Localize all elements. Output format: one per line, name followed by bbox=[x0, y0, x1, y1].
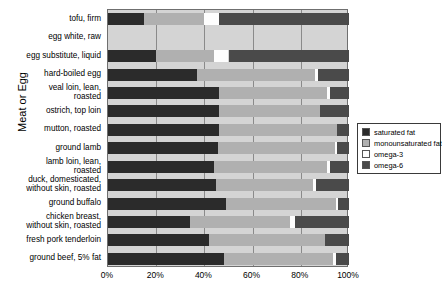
bar-segment-o6[interactable] bbox=[295, 216, 349, 228]
bar-segment-mono[interactable] bbox=[218, 142, 335, 154]
legend-label: omega-6 bbox=[374, 161, 403, 170]
bar-segment-mono[interactable] bbox=[226, 198, 336, 210]
category-label: ground beef, 5% fat bbox=[0, 253, 101, 262]
bar-row[interactable] bbox=[108, 124, 347, 136]
bar-segment-o6[interactable] bbox=[325, 234, 349, 246]
x-tick-label: 80% bbox=[280, 270, 320, 280]
bar-segment-o6[interactable] bbox=[320, 105, 349, 117]
legend-label: monounsaturated fat bbox=[374, 139, 442, 148]
chart-root: Meat or Egg tofu, firmegg white, rawegg … bbox=[0, 0, 442, 292]
legend-label: omega-3 bbox=[374, 150, 403, 159]
bar-segment-mono[interactable] bbox=[224, 253, 334, 265]
bar-segment-mono[interactable] bbox=[156, 50, 214, 62]
bar-segment-mono[interactable] bbox=[219, 124, 337, 136]
chart-legend: saturated fatmonounsaturated fatomega-3o… bbox=[357, 123, 441, 174]
x-tick-label: 20% bbox=[135, 270, 175, 280]
bar-segment-o3[interactable] bbox=[204, 13, 218, 25]
bar-segment-mono[interactable] bbox=[219, 87, 327, 99]
bar-segment-mono[interactable] bbox=[197, 69, 315, 81]
bar-segment-o6[interactable] bbox=[219, 13, 349, 25]
category-label: ostrich, top loin bbox=[0, 106, 101, 115]
bar-segment-o6[interactable] bbox=[229, 50, 350, 62]
bar-row[interactable] bbox=[108, 161, 347, 173]
legend-item[interactable]: saturated fat bbox=[362, 127, 437, 137]
bar-row[interactable] bbox=[108, 87, 347, 99]
x-tick-label: 40% bbox=[183, 270, 223, 280]
legend-label: saturated fat bbox=[374, 128, 415, 137]
bar-row[interactable] bbox=[108, 142, 347, 154]
category-label: ground buffalo bbox=[0, 198, 101, 207]
bar-segment-sat[interactable] bbox=[108, 87, 219, 99]
category-label: mutton, roasted bbox=[0, 124, 101, 133]
x-tick-label: 0% bbox=[87, 270, 127, 280]
bar-segment-sat[interactable] bbox=[108, 13, 144, 25]
bar-segment-o6[interactable] bbox=[330, 87, 349, 99]
bar-segment-mono[interactable] bbox=[219, 105, 320, 117]
category-label: fresh pork tenderloin bbox=[0, 235, 101, 244]
category-label: egg substitute, liquid bbox=[0, 51, 101, 60]
bar-segment-mono[interactable] bbox=[216, 179, 312, 191]
bar-segment-sat[interactable] bbox=[108, 124, 219, 136]
category-label: egg white, raw bbox=[0, 32, 101, 41]
legend-item[interactable]: monounsaturated fat bbox=[362, 138, 437, 148]
bar-segment-sat[interactable] bbox=[108, 198, 226, 210]
bar-row[interactable] bbox=[108, 13, 347, 25]
bar-segment-sat[interactable] bbox=[108, 105, 219, 117]
bar-segment-o6[interactable] bbox=[337, 142, 349, 154]
bar-segment-o6[interactable] bbox=[337, 124, 349, 136]
bar-row[interactable] bbox=[108, 234, 347, 246]
bar-row[interactable] bbox=[108, 179, 347, 191]
bar-segment-sat[interactable] bbox=[108, 179, 216, 191]
legend-swatch-icon bbox=[362, 139, 370, 147]
category-label: chicken breast, without skin, roasted bbox=[0, 212, 101, 230]
bar-segment-sat[interactable] bbox=[108, 253, 224, 265]
legend-swatch-icon bbox=[362, 150, 370, 158]
category-label: ground lamb bbox=[0, 143, 101, 152]
legend-swatch-icon bbox=[362, 161, 370, 169]
bar-segment-mono[interactable] bbox=[190, 216, 290, 228]
bar-row[interactable] bbox=[108, 50, 347, 62]
bar-segment-sat[interactable] bbox=[108, 142, 218, 154]
bar-segment-mono[interactable] bbox=[209, 234, 325, 246]
bar-row[interactable] bbox=[108, 198, 347, 210]
bar-segment-mono[interactable] bbox=[214, 161, 327, 173]
bar-row[interactable] bbox=[108, 253, 347, 265]
bar-segment-o6[interactable] bbox=[316, 179, 349, 191]
bar-segment-o6[interactable] bbox=[318, 69, 349, 81]
bar-segment-sat[interactable] bbox=[108, 161, 214, 173]
bar-row[interactable] bbox=[108, 216, 347, 228]
legend-item[interactable]: omega-3 bbox=[362, 149, 437, 159]
bar-segment-o3[interactable] bbox=[214, 50, 228, 62]
top-edge-artifact bbox=[0, 0, 442, 5]
plot-area bbox=[107, 9, 348, 267]
legend-swatch-icon bbox=[362, 128, 370, 136]
bar-segment-o6[interactable] bbox=[338, 198, 349, 210]
category-label: veal loin, lean, roasted bbox=[0, 83, 101, 101]
bar-segment-o6[interactable] bbox=[330, 161, 349, 173]
bar-segment-sat[interactable] bbox=[108, 69, 197, 81]
bar-segment-sat[interactable] bbox=[108, 50, 156, 62]
legend-item[interactable]: omega-6 bbox=[362, 160, 437, 170]
bar-row[interactable] bbox=[108, 69, 347, 81]
x-tick-label: 60% bbox=[232, 270, 272, 280]
bar-segment-sat[interactable] bbox=[108, 216, 190, 228]
category-label: lamb loin, lean, roasted bbox=[0, 157, 101, 175]
bar-row[interactable] bbox=[108, 105, 347, 117]
bar-segment-o6[interactable] bbox=[336, 253, 349, 265]
bar-row[interactable] bbox=[108, 32, 347, 44]
bar-segment-sat[interactable] bbox=[108, 234, 209, 246]
category-label: hard-boiled egg bbox=[0, 69, 101, 78]
category-label: duck, domesticated, without skin, roaste… bbox=[0, 175, 101, 193]
x-tick-label: 100% bbox=[328, 270, 368, 280]
bar-segment-mono[interactable] bbox=[144, 13, 204, 25]
category-label: tofu, firm bbox=[0, 14, 101, 23]
